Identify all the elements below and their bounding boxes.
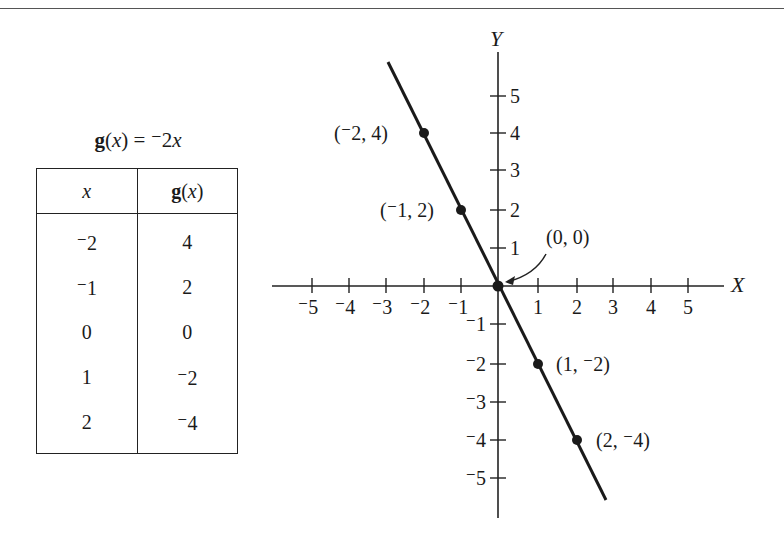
svg-text:⁻5: ⁻5 [298, 296, 319, 318]
svg-text:⁻5: ⁻5 [465, 467, 486, 489]
point-2-neg4 [572, 435, 582, 445]
label-neg2-4: (⁻2, 4) [334, 122, 388, 145]
svg-text:⁻3: ⁻3 [465, 391, 486, 413]
label-2-neg4: (2, ⁻4) [596, 429, 650, 452]
coordinate-plane: ⁻5 ⁻4 ⁻3 ⁻2 ⁻1 1 2 3 4 5 5 4 3 2 1 ⁻1 ⁻2… [0, 0, 784, 545]
svg-text:1: 1 [510, 237, 520, 259]
svg-text:4: 4 [510, 122, 520, 144]
point-neg1-2 [456, 205, 466, 215]
x-axis-label: X [730, 272, 746, 297]
svg-text:⁻2: ⁻2 [465, 353, 486, 375]
svg-text:⁻4: ⁻4 [465, 429, 486, 451]
svg-text:1: 1 [533, 296, 543, 318]
svg-text:⁻4: ⁻4 [335, 296, 356, 318]
svg-text:⁻2: ⁻2 [410, 296, 431, 318]
svg-text:2: 2 [572, 296, 582, 318]
arrowhead-icon [505, 276, 515, 285]
y-axis-label: Y [490, 26, 505, 51]
point-origin [493, 281, 504, 292]
svg-text:3: 3 [510, 159, 520, 181]
label-1-neg2: (1, ⁻2) [556, 353, 610, 376]
label-neg1-2: (⁻1, 2) [380, 199, 434, 222]
svg-text:⁻1: ⁻1 [465, 313, 486, 335]
svg-text:5: 5 [683, 296, 693, 318]
svg-text:3: 3 [608, 296, 618, 318]
svg-text:2: 2 [510, 199, 520, 221]
label-origin: (0, 0) [546, 226, 589, 249]
svg-text:5: 5 [510, 85, 520, 107]
svg-text:4: 4 [646, 296, 656, 318]
point-1-neg2 [533, 359, 543, 369]
svg-text:⁻3: ⁻3 [372, 296, 393, 318]
point-neg2-4 [419, 128, 429, 138]
x-tick-labels: ⁻5 ⁻4 ⁻3 ⁻2 ⁻1 1 2 3 4 5 [298, 296, 693, 318]
